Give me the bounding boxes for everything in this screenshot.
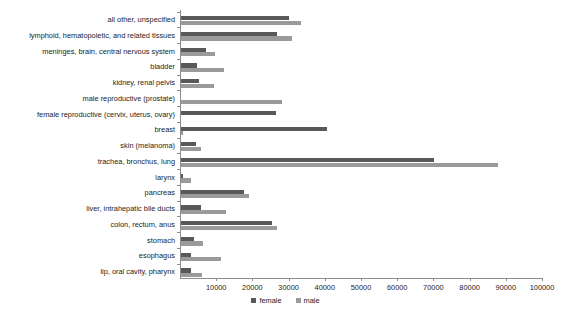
- category-label: breast: [154, 122, 175, 139]
- y-axis-tick: [177, 169, 180, 170]
- category-row: all other, unspecified: [180, 12, 542, 29]
- x-axis-tick-label: 100000: [530, 283, 555, 292]
- x-axis-tick: [216, 278, 217, 281]
- x-axis-tick: [361, 278, 362, 281]
- y-axis-tick: [177, 185, 180, 186]
- category-label: pancreas: [145, 185, 175, 202]
- category-row: trachea, bronchus, lung: [180, 154, 542, 171]
- category-label: stomach: [147, 233, 175, 250]
- legend-item-female[interactable]: female: [251, 296, 281, 305]
- category-row: pancreas: [180, 185, 542, 202]
- category-row: colon, rectum, anus: [180, 217, 542, 234]
- category-row: female reproductive (cervix, uterus, ova…: [180, 107, 542, 124]
- bar-male: [181, 241, 203, 245]
- x-axis-tick-label: 80000: [459, 283, 480, 292]
- category-label: female reproductive (cervix, uterus, ova…: [37, 107, 175, 124]
- category-row: male reproductive (prostate): [180, 91, 542, 108]
- bar-male: [181, 226, 277, 230]
- x-axis-tick-label: 70000: [423, 283, 444, 292]
- category-label: all other, unspecified: [108, 12, 175, 29]
- bar-male: [181, 163, 498, 167]
- bar-male: [181, 178, 191, 182]
- bar-male: [181, 273, 202, 277]
- bar-male: [181, 21, 301, 25]
- y-axis-tick: [177, 138, 180, 139]
- legend-swatch-icon: [251, 298, 256, 303]
- bar-male: [181, 194, 249, 198]
- category-label: male reproductive (prostate): [83, 91, 175, 108]
- legend-swatch-icon: [296, 298, 301, 303]
- category-label: kidney, renal pelvis: [113, 75, 175, 92]
- legend-label: male: [304, 296, 320, 305]
- category-row: meninges, brain, central nervous system: [180, 44, 542, 61]
- y-axis-tick: [177, 232, 180, 233]
- y-axis-tick: [177, 59, 180, 60]
- bar-male: [181, 210, 226, 214]
- y-axis-tick: [177, 216, 180, 217]
- x-axis-tick: [470, 278, 471, 281]
- category-label: lip, oral cavity, pharynx: [100, 264, 175, 281]
- x-axis-tick-label: 40000: [315, 283, 336, 292]
- category-label: bladder: [150, 59, 175, 76]
- x-axis-tick-label: 90000: [496, 283, 517, 292]
- category-row: esophagus: [180, 248, 542, 265]
- y-axis-tick: [177, 27, 180, 28]
- category-row: stomach: [180, 233, 542, 250]
- category-row: kidney, renal pelvis: [180, 75, 542, 92]
- x-axis-tick: [325, 278, 326, 281]
- category-label: larynx: [155, 170, 175, 187]
- category-label: trachea, bronchus, lung: [98, 154, 175, 171]
- x-axis-tick: [252, 278, 253, 281]
- category-label: colon, rectum, anus: [111, 217, 176, 234]
- y-axis-tick: [177, 43, 180, 44]
- y-axis-tick: [177, 12, 180, 13]
- category-label: esophagus: [139, 248, 175, 265]
- x-axis-tick: [433, 278, 434, 281]
- bar-male: [181, 147, 201, 151]
- category-row: liver, intrahepatic bile ducts: [180, 201, 542, 218]
- bar-female: [181, 111, 276, 115]
- bar-male: [181, 100, 282, 104]
- category-row: skin (melanoma): [180, 138, 542, 155]
- x-axis-tick-label: 20000: [242, 283, 263, 292]
- bar-male: [181, 84, 214, 88]
- y-axis-tick: [177, 122, 180, 123]
- x-axis-tick-label: 10000: [206, 283, 227, 292]
- x-axis-tick: [542, 278, 543, 281]
- category-label: liver, intrahepatic bile ducts: [86, 201, 175, 218]
- bar-male: [181, 68, 224, 72]
- bar-chart: all other, unspecifiedlymphoid, hematopo…: [0, 0, 571, 321]
- category-row: bladder: [180, 59, 542, 76]
- category-label: skin (melanoma): [120, 138, 175, 155]
- bar-male: [181, 131, 183, 135]
- bar-male: [181, 257, 221, 261]
- legend-item-male[interactable]: male: [296, 296, 320, 305]
- chart-legend: femalemale: [0, 296, 571, 305]
- bar-female: [181, 127, 327, 131]
- y-axis-tick: [177, 248, 180, 249]
- y-axis-tick: [177, 75, 180, 76]
- plot-area: all other, unspecifiedlymphoid, hematopo…: [180, 10, 542, 278]
- x-axis-tick: [397, 278, 398, 281]
- bar-male: [181, 36, 292, 40]
- category-label: meninges, brain, central nervous system: [42, 44, 175, 61]
- y-axis-tick: [177, 153, 180, 154]
- x-axis-tick-label: 30000: [278, 283, 299, 292]
- x-axis-tick-label: 60000: [387, 283, 408, 292]
- y-axis-tick: [177, 90, 180, 91]
- y-axis-tick: [177, 264, 180, 265]
- x-axis-tick: [289, 278, 290, 281]
- category-row: breast: [180, 122, 542, 139]
- x-axis-tick-label: 50000: [351, 283, 372, 292]
- category-row: larynx: [180, 170, 542, 187]
- y-axis-tick: [177, 201, 180, 202]
- y-axis-tick: [177, 106, 180, 107]
- bar-male: [181, 52, 215, 56]
- category-row: lymphoid, hematopoietic, and related tis…: [180, 28, 542, 45]
- category-label: lymphoid, hematopoietic, and related tis…: [29, 28, 175, 45]
- legend-label: female: [259, 296, 281, 305]
- x-axis-tick: [506, 278, 507, 281]
